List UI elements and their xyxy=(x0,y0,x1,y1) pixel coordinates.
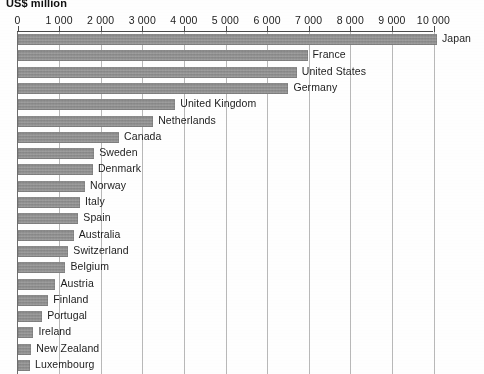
bar-row: United Kingdom xyxy=(0,98,484,114)
bar xyxy=(18,132,119,143)
plot-area: JapanFranceUnited StatesGermanyUnited Ki… xyxy=(0,32,484,374)
bar-row: Belgium xyxy=(0,261,484,277)
bar xyxy=(18,360,30,371)
bar xyxy=(18,34,437,45)
bar-row: Finland xyxy=(0,294,484,310)
bar xyxy=(18,50,308,61)
x-tick-mark xyxy=(59,26,60,32)
x-tick-mark xyxy=(392,26,393,32)
bar xyxy=(18,230,74,241)
bar-chart: US$ million 01 0002 0003 0004 0005 0006 … xyxy=(0,0,484,374)
bar-row: New Zealand xyxy=(0,343,484,359)
x-tick-label: 1 000 xyxy=(45,14,72,26)
bar xyxy=(18,164,93,175)
bar-category-label: Canada xyxy=(124,130,161,142)
bar xyxy=(18,262,65,273)
bar-row: Ireland xyxy=(0,326,484,342)
bar-category-label: Ireland xyxy=(38,325,71,337)
bar xyxy=(18,311,42,322)
bar-row: Italy xyxy=(0,196,484,212)
bar-row: Switzerland xyxy=(0,245,484,261)
chart-title: US$ million xyxy=(6,0,67,9)
bar-category-label: Switzerland xyxy=(73,244,128,256)
bar-category-label: Sweden xyxy=(99,146,138,158)
bar xyxy=(18,279,55,290)
bar xyxy=(18,148,94,159)
bar xyxy=(18,344,31,355)
bar-row: Germany xyxy=(0,82,484,98)
bar-category-label: New Zealand xyxy=(36,342,99,354)
x-tick-mark xyxy=(267,26,268,32)
bar-category-label: France xyxy=(313,48,346,60)
bar-category-label: United States xyxy=(302,65,366,77)
x-tick-label: 4 000 xyxy=(170,14,197,26)
x-tick-label: 5 000 xyxy=(212,14,239,26)
bar xyxy=(18,181,85,192)
bar xyxy=(18,295,48,306)
bar xyxy=(18,83,288,94)
bar-row: Luxembourg xyxy=(0,359,484,374)
bar-row: Denmark xyxy=(0,163,484,179)
x-tick-mark xyxy=(184,26,185,32)
bar-row: Canada xyxy=(0,131,484,147)
bar-category-label: Japan xyxy=(442,32,471,44)
bar-row: United States xyxy=(0,66,484,82)
bar-category-label: Germany xyxy=(293,81,337,93)
x-tick-mark xyxy=(142,26,143,32)
bar-row: Japan xyxy=(0,33,484,49)
bar-category-label: Netherlands xyxy=(158,114,216,126)
x-tick-mark xyxy=(18,26,19,32)
bar-category-label: Spain xyxy=(83,211,110,223)
bar-row: Spain xyxy=(0,212,484,228)
x-tick-label: 8 000 xyxy=(337,14,364,26)
x-tick-label: 10 000 xyxy=(417,14,450,26)
bar-category-label: Belgium xyxy=(70,260,109,272)
bar-category-label: Finland xyxy=(53,293,88,305)
bar xyxy=(18,327,33,338)
bar-category-label: Australia xyxy=(79,228,121,240)
bar xyxy=(18,99,175,110)
x-tick-label: 6 000 xyxy=(253,14,280,26)
bar-category-label: Denmark xyxy=(98,162,141,174)
bar-row: Australia xyxy=(0,229,484,245)
bar-category-label: Austria xyxy=(60,277,93,289)
bar-category-label: Norway xyxy=(90,179,126,191)
bar-row: Portugal xyxy=(0,310,484,326)
bar xyxy=(18,67,297,78)
bar-row: Sweden xyxy=(0,147,484,163)
bar-row: Austria xyxy=(0,278,484,294)
bar-row: Netherlands xyxy=(0,115,484,131)
bar-row: France xyxy=(0,49,484,65)
x-tick-mark xyxy=(101,26,102,32)
bar-category-label: Luxembourg xyxy=(35,358,94,370)
x-axis-tick-labels: 01 0002 0003 0004 0005 0006 0007 0008 00… xyxy=(0,14,484,27)
x-tick-label: 3 000 xyxy=(129,14,156,26)
bar xyxy=(18,213,78,224)
x-tick-label: 0 xyxy=(14,14,20,26)
bar xyxy=(18,246,68,257)
bar-category-label: United Kingdom xyxy=(180,97,256,109)
x-tick-mark xyxy=(309,26,310,32)
bar-category-label: Italy xyxy=(85,195,105,207)
x-tick-mark xyxy=(226,26,227,32)
bar-row: Norway xyxy=(0,180,484,196)
x-tick-mark xyxy=(350,26,351,32)
x-tick-mark xyxy=(434,26,435,32)
bar xyxy=(18,116,153,127)
x-tick-label: 9 000 xyxy=(378,14,405,26)
bar-category-label: Portugal xyxy=(47,309,87,321)
x-tick-label: 2 000 xyxy=(87,14,114,26)
x-tick-label: 7 000 xyxy=(295,14,322,26)
bar xyxy=(18,197,80,208)
